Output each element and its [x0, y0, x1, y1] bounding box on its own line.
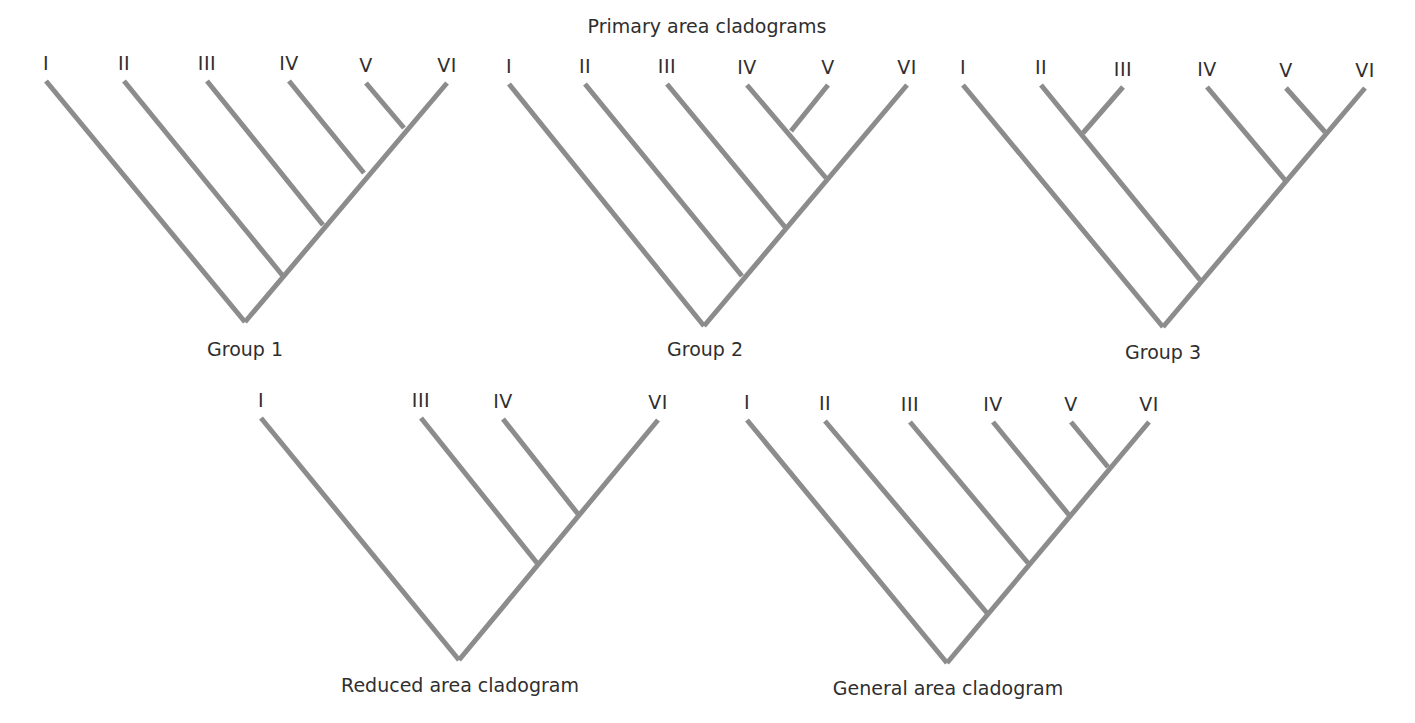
- branch-line: [46, 81, 245, 322]
- tip-label-vi: VI: [1139, 395, 1159, 414]
- tip-label-i: I: [506, 57, 512, 76]
- tip-label-iii: III: [658, 57, 676, 76]
- tip-label-iii: III: [412, 391, 430, 410]
- tip-label-vi: VI: [648, 393, 668, 412]
- branch-line: [366, 83, 404, 128]
- branch-line: [459, 420, 658, 660]
- tip-label-i: I: [744, 393, 750, 412]
- branch-line: [124, 81, 283, 276]
- branch-line: [289, 81, 364, 173]
- cladogram-caption-group1: Group 1: [207, 340, 283, 359]
- tip-label-ii: II: [1035, 58, 1047, 77]
- cladogram-caption-general: General area cladogram: [833, 679, 1063, 698]
- tip-label-ii: II: [819, 394, 831, 413]
- branch-line: [1071, 422, 1108, 467]
- branch-line: [503, 419, 578, 514]
- branch-line: [963, 85, 1163, 327]
- tip-label-v: V: [359, 56, 373, 75]
- tip-label-iv: IV: [1197, 60, 1217, 79]
- cladogram-group2: [509, 84, 907, 326]
- branch-line: [1163, 88, 1365, 327]
- branch-line: [1207, 87, 1285, 180]
- branch-line: [747, 420, 947, 663]
- tip-label-ii: II: [118, 54, 130, 73]
- tip-label-v: V: [821, 58, 835, 77]
- cladogram-caption-group3: Group 3: [1125, 343, 1201, 362]
- tip-label-ii: II: [579, 57, 591, 76]
- branch-line: [261, 418, 459, 660]
- tip-label-v: V: [1064, 395, 1078, 414]
- tip-label-vi: VI: [437, 56, 457, 75]
- cladogram-canvas: [0, 0, 1415, 723]
- cladogram-caption-group2: Group 2: [667, 340, 743, 359]
- cladogram-group3: [963, 85, 1365, 327]
- cladogram-group1: [46, 81, 447, 322]
- branch-line: [947, 422, 1149, 663]
- branch-line: [1041, 85, 1200, 280]
- branch-line: [1083, 87, 1123, 133]
- branch-line: [509, 84, 704, 326]
- tip-label-vi: VI: [1355, 61, 1375, 80]
- branch-line: [825, 421, 987, 613]
- tip-label-iii: III: [1114, 60, 1132, 79]
- branch-line: [1286, 88, 1325, 132]
- branch-line: [704, 85, 907, 326]
- tip-label-iv: IV: [983, 395, 1003, 414]
- tip-label-iv: IV: [493, 392, 513, 411]
- tip-label-vi: VI: [897, 58, 917, 77]
- branch-line: [245, 83, 447, 322]
- branch-line: [585, 84, 742, 276]
- branch-line: [993, 422, 1069, 515]
- tip-label-i: I: [43, 54, 49, 73]
- cladogram-reduced: [261, 418, 658, 660]
- tip-label-iv: IV: [737, 58, 757, 77]
- tip-label-v: V: [1279, 61, 1293, 80]
- tip-label-iv: IV: [279, 54, 299, 73]
- tip-label-i: I: [960, 58, 966, 77]
- branch-line: [791, 85, 828, 131]
- tip-label-i: I: [258, 391, 264, 410]
- cladogram-caption-reduced: Reduced area cladogram: [341, 676, 579, 695]
- tip-label-iii: III: [198, 54, 216, 73]
- cladogram-general: [747, 420, 1149, 663]
- tip-label-iii: III: [901, 395, 919, 414]
